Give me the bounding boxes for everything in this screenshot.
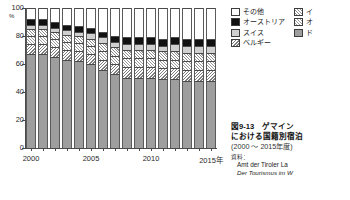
bar-segment [51,47,59,57]
stacked-bar [122,8,132,148]
stacked-bar [158,8,168,148]
x-tickmark [163,148,164,151]
bar-segment [183,81,191,148]
legend-label: ベルギー [243,39,271,47]
legend-swatch-icon [231,29,240,37]
stacked-bar [110,8,120,148]
bar-segment [147,58,155,66]
bar-segment [39,44,47,54]
bar-segment [159,68,167,79]
bar-segment [135,78,143,148]
chart-legend: その他オーストリアスイスベルギーイオド [231,8,350,47]
bar-segment [147,78,155,148]
legend-swatch-icon [294,29,303,37]
bar-segment [39,54,47,148]
bar-segment [51,8,59,22]
legend-label: その他 [243,8,264,16]
bar-segment [135,50,143,58]
bar-segment [159,51,167,59]
bar-segment [183,46,191,53]
bar-segment [111,74,119,148]
bar-segment [147,8,155,37]
bar-segment [87,64,95,148]
legend-item-その他[interactable]: その他 [231,8,285,16]
bar-group-2000 [25,8,37,148]
x-tickmark [175,148,176,151]
y-tickmark-0 [22,148,25,149]
bar-segment [99,70,107,148]
figure-caption: 図9-13 ゲマイン における国籍別宿泊 (2000 ～ 2015年度) 資料：… [231,122,350,177]
bar-segment [63,8,71,25]
bar-segment [207,8,215,39]
bar-segment [135,8,143,37]
bar-segment [63,42,71,50]
legend-label: ド [306,29,313,37]
x-tick-label-2015: 2015年 [199,154,223,165]
bar-segment [183,53,191,61]
legend-item-スイス[interactable]: スイス [231,29,285,37]
bar-segment [123,58,131,66]
bar-segment [183,8,191,39]
y-tickmark-100 [22,8,25,9]
bar-segment [39,36,47,44]
legend-column-1: その他オーストリアスイスベルギー [231,8,285,47]
bar-group-2014 [193,8,205,148]
bar-segment [99,60,107,70]
caption-source-line1: Amt der Tiroler La [237,161,350,169]
chart-axes: 2000200520102015年 [25,8,217,148]
bar-segment [171,51,179,59]
bar-segment [123,8,131,37]
bar-group-2009 [133,8,145,148]
stacked-bar [38,8,48,148]
stacked-bar [134,8,144,148]
x-tickmark [211,148,212,151]
x-tickmark [79,148,80,151]
legend-item-イ[interactable]: イ [294,8,313,16]
y-axis-tick-labels: 100806040200 [0,0,24,200]
bar-segment [87,54,95,64]
legend-label: オーストリア [243,18,285,26]
bar-group-2012 [169,8,181,148]
bar-segment [75,61,83,148]
bar-segment [195,8,203,39]
stacked-bar [98,8,108,148]
legend-swatch-icon [231,39,240,47]
stacked-bar [146,8,156,148]
legend-item-ド[interactable]: ド [294,29,313,37]
bar-group-2007 [109,8,121,148]
bar-segment [111,56,119,64]
stacked-bar [74,8,84,148]
x-tickmark [139,148,140,151]
x-tickmark [187,148,188,151]
legend-item-オ[interactable]: オ [294,18,313,26]
caption-source-label: 資料： [231,154,350,161]
bar-segment [123,50,131,58]
caption-period: (2000 ～ 2015年度) [231,142,350,152]
bar-segment [147,67,155,78]
bar-segment [87,8,95,28]
stacked-bar [194,8,204,148]
bar-group-2002 [49,8,61,148]
bar-segment [51,32,59,39]
x-tickmark [103,148,104,151]
caption-title: 図9-13 ゲマイン における国籍別宿泊 [231,122,350,141]
x-tickmark [55,148,56,151]
bar-segment [63,35,71,42]
bar-segment [171,68,179,79]
x-tickmark [91,148,92,151]
bar-segment [147,37,155,44]
x-tickmark [115,148,116,151]
bar-segment [171,79,179,148]
bar-segment [147,50,155,58]
bar-group-2010 [145,8,157,148]
legend-item-ベルギー[interactable]: ベルギー [231,39,285,47]
chart-plot-area: % 100806040200 2000200520102015年 [0,0,222,200]
y-tickmark-80 [22,36,25,37]
legend-item-オーストリア[interactable]: オーストリア [231,18,285,26]
legend-label: スイス [243,29,264,37]
stacked-bar [86,8,96,148]
bar-segment [207,39,215,46]
bar-segment [111,64,119,74]
bar-segment [75,43,83,51]
stacked-bar [170,8,180,148]
